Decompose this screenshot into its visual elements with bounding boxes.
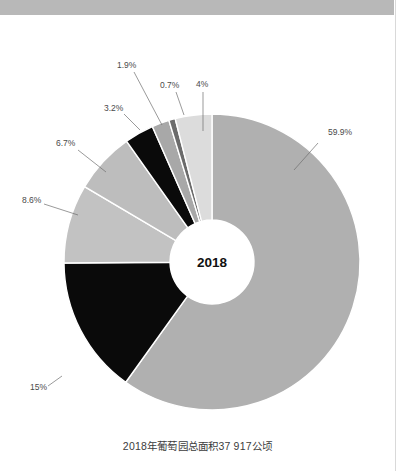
donut-chart-svg: 59.9%15%8.6%6.7%3.2%1.9%0.7%4% 2018 bbox=[0, 15, 395, 440]
slice-percentage-label: 1.9% bbox=[117, 60, 137, 70]
center-year-label: 2018 bbox=[197, 255, 228, 270]
slice-percentage-label: 3.2% bbox=[104, 103, 124, 113]
leader-line bbox=[78, 150, 106, 172]
chart-caption: 2018年葡萄园总面积37 917公顷 bbox=[0, 438, 395, 453]
slice-percentage-label: 0.7% bbox=[160, 80, 180, 90]
leader-line bbox=[48, 376, 62, 386]
slice-percentage-label: 6.7% bbox=[56, 138, 76, 148]
right-vertical-rule bbox=[395, 0, 396, 471]
leader-line bbox=[134, 72, 162, 125]
chart-page: 59.9%15%8.6%6.7%3.2%1.9%0.7%4% 2018 2018… bbox=[0, 0, 416, 471]
slice-percentage-label: 8.6% bbox=[22, 195, 42, 205]
donut-chart-container: 59.9%15%8.6%6.7%3.2%1.9%0.7%4% 2018 bbox=[0, 15, 395, 440]
slice-percentage-label: 15% bbox=[30, 382, 47, 392]
leader-line bbox=[124, 114, 140, 130]
top-gray-band bbox=[0, 0, 394, 15]
slice-percentage-label: 59.9% bbox=[328, 127, 353, 137]
slice-percentage-label: 4% bbox=[196, 79, 209, 89]
leader-line bbox=[176, 92, 184, 115]
